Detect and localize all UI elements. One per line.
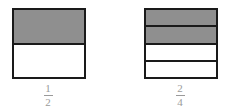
unshaded-part	[14, 43, 84, 78]
numerator: 2	[177, 82, 183, 94]
fraction-label-one-half: 1 2	[38, 83, 58, 108]
shaded-part	[146, 25, 216, 42]
fraction-bar-halves	[12, 8, 86, 79]
denominator: 4	[177, 96, 183, 108]
denominator: 2	[45, 96, 51, 108]
fraction-label-two-quarters: 2 4	[170, 83, 190, 108]
unshaded-part	[146, 60, 216, 77]
fraction-bar-quarters	[144, 8, 218, 79]
shaded-part	[14, 10, 84, 43]
numerator: 1	[45, 82, 51, 94]
shaded-part	[146, 10, 216, 25]
unshaded-part	[146, 43, 216, 60]
